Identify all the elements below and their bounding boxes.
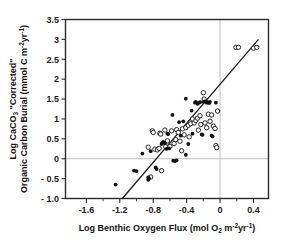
data-point-filled	[208, 100, 212, 104]
data-point-open	[187, 135, 191, 139]
y-tick-label: 1.5	[46, 94, 59, 104]
y-tick-label: 1	[54, 114, 59, 124]
x-axis-title-text: Log Benthic Oxygen Flux (mol O2 m-2yr-1)	[79, 222, 256, 234]
x-tick-label: 0	[218, 205, 223, 215]
data-point-open	[208, 119, 212, 123]
data-point-open	[209, 113, 213, 117]
data-point-open	[203, 121, 207, 125]
data-point-open	[146, 145, 150, 149]
y-axis-title-line1: Log CaCO3 "Corrected"	[8, 58, 19, 159]
x-tick-label: 0.4	[247, 205, 260, 215]
data-point-filled	[211, 135, 215, 139]
data-point-open	[159, 132, 163, 136]
y-tick-label: - 0.5	[41, 174, 59, 184]
data-point-filled	[140, 152, 144, 156]
scatter-plot-figure: -1.6-1.2-0.8-0.400.4 - 1.0- 0.500.511.52…	[0, 0, 283, 246]
data-point-filled	[201, 133, 205, 137]
x-tick-label: -0.4	[179, 205, 195, 215]
data-point-open	[204, 125, 208, 129]
y-tick-label: 3	[54, 35, 59, 45]
y-tick-label: 3.5	[46, 15, 59, 25]
data-point-open	[176, 130, 180, 134]
data-point-filled	[167, 146, 171, 150]
x-tick-label: -1.6	[79, 205, 95, 215]
data-point-open	[201, 90, 205, 94]
data-point-filled	[171, 113, 175, 117]
data-point-open	[215, 145, 219, 149]
x-tick-label: -1.2	[112, 205, 128, 215]
data-point-filled	[149, 149, 153, 153]
data-point-filled	[186, 142, 190, 146]
data-point-open	[182, 133, 186, 137]
y-tick-label: - 1.0	[41, 194, 59, 204]
x-tick-label: -0.8	[145, 205, 161, 215]
data-point-filled	[155, 167, 159, 171]
data-point-filled	[177, 120, 181, 124]
y-tick-label: 2.5	[46, 55, 59, 65]
data-point-open	[236, 45, 240, 49]
figure-background	[0, 0, 283, 246]
data-point-filled	[163, 141, 167, 145]
data-point-open	[159, 168, 163, 172]
data-point-filled	[175, 158, 179, 162]
chart-canvas: -1.6-1.2-0.8-0.400.4 - 1.0- 0.500.511.52…	[0, 0, 283, 246]
data-point-open	[213, 126, 217, 130]
y-tick-label: 2	[54, 74, 59, 84]
data-point-open	[179, 149, 183, 153]
data-point-open	[255, 45, 259, 49]
data-point-open	[163, 128, 167, 132]
data-point-filled	[184, 153, 188, 157]
data-point-open	[178, 139, 182, 143]
data-point-filled	[190, 109, 194, 113]
data-point-open	[196, 128, 200, 132]
data-point-filled	[147, 177, 151, 181]
data-point-filled	[184, 97, 188, 101]
y-tick-label: 0	[54, 154, 59, 164]
data-point-open	[151, 130, 155, 134]
data-point-filled	[114, 183, 118, 187]
data-point-open	[198, 114, 202, 118]
data-point-open	[215, 109, 219, 113]
data-point-open	[157, 146, 161, 150]
data-point-open	[169, 129, 173, 133]
x-axis-title: Log Benthic Oxygen Flux (mol O2 m-2yr-1)	[79, 222, 256, 234]
data-point-filled	[179, 134, 183, 138]
y-tick-label: 0.5	[46, 134, 59, 144]
data-point-filled	[135, 169, 139, 173]
data-point-filled	[198, 100, 202, 104]
data-point-filled	[181, 119, 185, 123]
data-point-filled	[166, 132, 170, 136]
data-point-filled	[214, 101, 218, 105]
y-axis-title-line2: Organic Carbon Burial (mmol C m-2yr-1)	[18, 25, 29, 193]
data-point-filled	[191, 132, 195, 136]
